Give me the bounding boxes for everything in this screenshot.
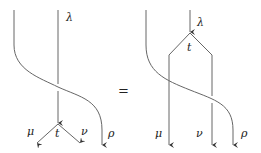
- string-diagram: [0, 0, 261, 153]
- left-nu-branch: [58, 124, 80, 143]
- left-vertex-label: t: [55, 128, 59, 139]
- equals-sign: =: [118, 84, 129, 97]
- right-vertex-label: t: [187, 42, 191, 53]
- right-mu-label: μ: [155, 128, 162, 139]
- right-rho-label: ρ: [241, 128, 247, 139]
- right-lambda-label: λ: [197, 17, 204, 28]
- left-rho-label: ρ: [108, 128, 114, 139]
- right-nu-label: ν: [196, 128, 203, 139]
- left-lambda-label: λ: [66, 12, 73, 23]
- left-mu-label: μ: [27, 126, 34, 137]
- left-nu-label: ν: [81, 126, 88, 137]
